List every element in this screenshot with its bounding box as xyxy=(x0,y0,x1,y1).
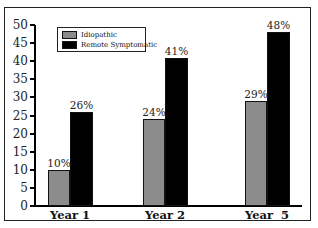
bar-idiopathic xyxy=(245,101,267,206)
x-category-label: Year 5 xyxy=(232,209,302,221)
legend-item-idiopathic: Idiopathic xyxy=(62,30,117,40)
y-tick xyxy=(30,133,35,135)
bar-remote-symptomatic xyxy=(267,32,290,206)
y-tick-label: 50 xyxy=(6,19,28,31)
y-tick xyxy=(30,115,35,117)
y-tick xyxy=(30,169,35,171)
y-tick-label: 5 xyxy=(6,182,28,194)
y-tick xyxy=(30,187,35,189)
bar-idiopathic xyxy=(48,170,70,206)
y-tick xyxy=(30,42,35,44)
y-tick xyxy=(30,24,35,26)
legend-swatch-remote-symptomatic xyxy=(62,41,77,49)
y-tick xyxy=(30,96,35,98)
legend-label-remote-symptomatic: Remote Symptomatic xyxy=(81,41,157,49)
y-tick xyxy=(30,60,35,62)
y-tick-label: 45 xyxy=(6,37,28,49)
bar-value-label: 26% xyxy=(62,100,102,111)
y-tick xyxy=(30,151,35,153)
y-tick-label: 25 xyxy=(6,110,28,122)
y-tick-label: 10 xyxy=(6,164,28,176)
y-tick-label: 35 xyxy=(6,73,28,85)
legend-swatch-idiopathic xyxy=(62,31,77,39)
x-category-label: Year 1 xyxy=(35,209,105,221)
bar-value-label: 48% xyxy=(259,20,299,31)
y-tick-label: 40 xyxy=(6,55,28,67)
y-tick-label: 30 xyxy=(6,91,28,103)
bar-value-label: 41% xyxy=(157,46,197,57)
legend-label-idiopathic: Idiopathic xyxy=(81,31,117,39)
bar-remote-symptomatic xyxy=(70,112,93,206)
legend-item-remote-symptomatic: Remote Symptomatic xyxy=(62,40,157,50)
y-tick-label: 15 xyxy=(6,146,28,158)
bar-idiopathic xyxy=(143,119,165,206)
y-tick-label: 20 xyxy=(6,128,28,140)
bar-remote-symptomatic xyxy=(165,58,188,206)
y-tick-label: 0 xyxy=(6,200,28,212)
y-tick xyxy=(30,205,35,207)
y-tick xyxy=(30,78,35,80)
legend: Idiopathic Remote Symptomatic xyxy=(57,27,146,52)
x-category-label: Year 2 xyxy=(130,209,200,221)
